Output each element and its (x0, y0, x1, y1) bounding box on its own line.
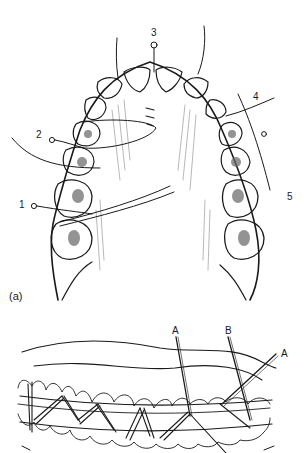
panel-b-arch (18, 337, 278, 453)
panel-a-label: (a) (9, 291, 22, 302)
wire-label-2: 2 (36, 130, 42, 140)
wire-label-5: 5 (287, 192, 293, 202)
wire-label-b: B (225, 326, 232, 336)
wire-label-4: 4 (253, 92, 259, 102)
wire-label-3: 3 (151, 28, 157, 38)
wire-label-a-right: A (281, 349, 288, 359)
wire-label-a-left: A (172, 326, 179, 336)
dental-wiring-figure: 3 2 1 4 5 (a) A B A (0, 0, 304, 453)
wire-label-1: 1 (19, 200, 25, 210)
figure-artwork (0, 0, 304, 453)
panel-a-arch (12, 26, 274, 300)
